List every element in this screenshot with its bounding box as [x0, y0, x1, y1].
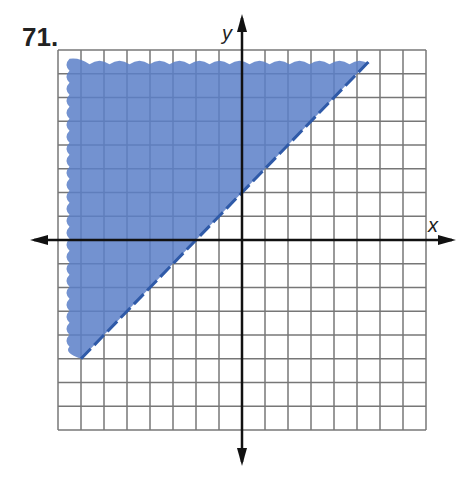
shaded-region: [67, 58, 370, 358]
y-axis-label: y: [220, 22, 233, 44]
coordinate-graph: x y: [0, 0, 472, 480]
x-axis-label: x: [427, 214, 439, 236]
